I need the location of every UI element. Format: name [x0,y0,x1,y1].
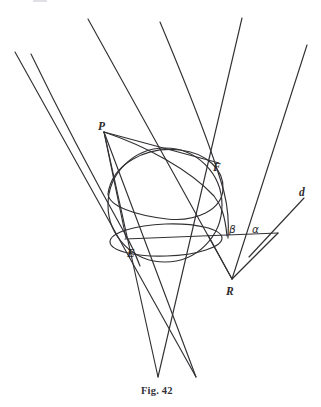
label-d: d [299,186,305,198]
label-P: P [98,120,106,132]
segment-beta-to-R [208,235,232,279]
label-F: F [212,161,221,173]
triangle-R [208,233,278,279]
label-R: R [225,285,234,297]
generator-far-right [232,45,307,279]
figure-container: P F E R d β α Fig. 42 [0,0,321,407]
figure-caption: Fig. 42 [141,385,173,396]
segment-P-to-E-tangent [104,132,126,238]
secondary-generators [88,19,307,279]
label-angle-alpha: α [252,223,259,235]
cone-generator-right-outer [158,18,242,377]
conic-arc-left [31,54,140,266]
geometry-diagram: P F E R d β α Fig. 42 [0,0,321,407]
label-E: E [126,247,135,259]
label-angle-beta: β [228,223,236,235]
conic-arc-right [160,22,228,238]
segment-P-to-F [104,132,219,163]
page-edge-artifact [33,0,47,2]
angle-labels: β α [228,223,259,235]
